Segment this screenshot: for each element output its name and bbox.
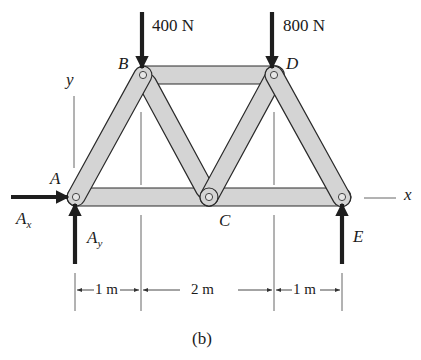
truss-diagram	[0, 0, 421, 360]
joint-label-C: C	[219, 212, 230, 229]
pin-D	[270, 71, 277, 78]
pin-A	[72, 193, 79, 200]
reaction-label-Ax: Ax	[16, 210, 31, 227]
member-AB	[64, 63, 155, 209]
pin-B	[139, 71, 146, 78]
figure-caption: (b)	[192, 330, 212, 347]
joint-label-D: D	[286, 55, 298, 72]
reaction-Ay-sub: y	[97, 237, 102, 249]
load-label-400N: 400 N	[152, 17, 194, 34]
dimension-label-BD: 2 m	[190, 282, 215, 297]
reaction-label-Ay: Ay	[87, 229, 102, 246]
reaction-Ay-main: A	[87, 228, 97, 247]
pin-E	[338, 193, 345, 200]
pin-C	[205, 193, 212, 200]
joint-label-A: A	[50, 170, 60, 187]
joint-label-B: B	[118, 55, 128, 72]
axis-label-y: y	[66, 71, 74, 88]
dimension-label-AB: 1 m	[94, 282, 119, 297]
member-BD	[143, 66, 274, 84]
member-BC	[135, 71, 217, 202]
reaction-Ax-main: A	[16, 209, 26, 228]
axis-label-x: x	[404, 186, 412, 203]
joint-label-E: E	[353, 228, 363, 245]
load-label-800N: 800 N	[283, 17, 325, 34]
dimension-label-DE: 1 m	[292, 282, 317, 297]
reaction-Ax-sub: x	[26, 218, 31, 230]
truss-members	[64, 63, 354, 210]
